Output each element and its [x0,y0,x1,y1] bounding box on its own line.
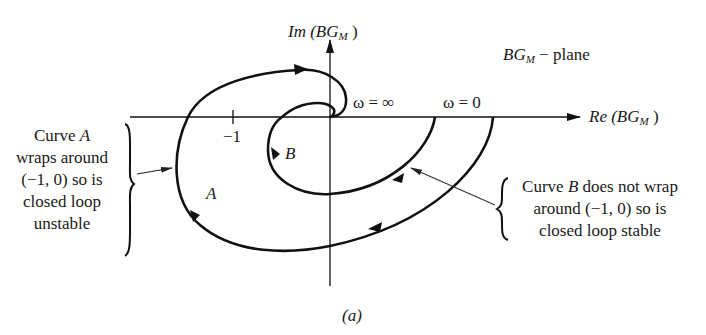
real-axis-label: Re (BGM ) [589,107,659,131]
curve-a-label: A [206,184,216,204]
figure-caption: (a) [342,306,362,326]
plane-prefix: BG [503,45,526,64]
note-a-var: A [80,126,90,145]
note-b-prefix: Curve [522,177,568,196]
note-b-suffix: does not wrap [578,177,678,196]
note-a-line5: unstable [2,213,122,235]
note-b-line3: closed loop stable [510,220,690,242]
plane-label: BGM − plane [503,45,590,69]
plane-suffix: − plane [535,45,590,64]
curve-a-arrow-lower-right [368,222,382,232]
omega-zero-label: ω = 0 [443,93,481,113]
curve-b-arrow-left [271,147,280,160]
brace-b [497,178,508,240]
imag-sub: M [339,30,348,42]
note-a-line2: wraps around [2,147,122,169]
imag-var: BG [316,22,339,41]
imag-prefix: Im ( [288,22,316,41]
real-prefix: Re ( [589,107,617,126]
note-curve-b: Curve B does not wrap around (−1, 0) so … [510,176,690,242]
imag-axis-label: Im (BGM ) [288,22,358,46]
note-curve-a: Curve A wraps around (−1, 0) so is close… [2,125,122,235]
note-b-var: B [568,177,578,196]
note-a-line3: (−1, 0) so is [2,169,122,191]
note-a-line1: Curve A [2,125,122,147]
note-a-line4: closed loop [2,191,122,213]
plane-sub: M [526,53,535,65]
real-sub: M [640,115,649,127]
note-a-prefix: Curve [34,126,80,145]
pointer-a [137,168,172,174]
real-var: BG [617,107,640,126]
omega-infinity-label: ω = ∞ [353,93,394,113]
imag-suffix: ) [348,22,358,41]
curve-b-label: B [285,144,295,164]
curve-a-arrow-top [294,64,308,75]
pointer-b [411,168,495,205]
note-b-line2: around (−1, 0) so is [510,198,690,220]
brace-a [125,124,134,256]
minus-one-label: −1 [223,127,241,147]
note-b-line1: Curve B does not wrap [510,176,690,198]
real-suffix: ) [649,107,659,126]
